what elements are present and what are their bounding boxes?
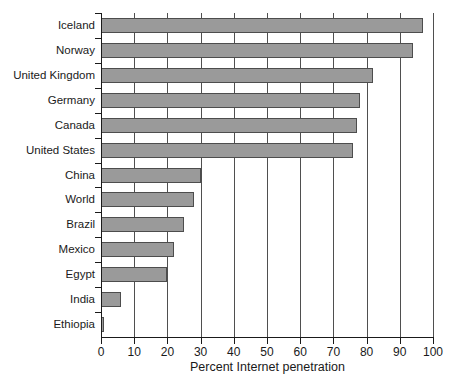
x-tick-label-60: 60 bbox=[284, 345, 316, 359]
x-axis-tick-40 bbox=[234, 338, 235, 344]
bar-norway bbox=[101, 43, 413, 58]
x-axis-tick-30 bbox=[201, 338, 202, 344]
x-axis-title: Percent Internet penetration bbox=[101, 360, 434, 374]
x-tick-label-90: 90 bbox=[384, 345, 416, 359]
x-tick-label-80: 80 bbox=[351, 345, 383, 359]
bar-germany bbox=[101, 93, 360, 108]
bar-china bbox=[101, 168, 201, 183]
bar-brazil bbox=[101, 217, 184, 232]
bar-united-kingdom bbox=[101, 68, 373, 83]
category-label-mexico: Mexico bbox=[0, 237, 95, 262]
category-label-china: China bbox=[0, 163, 95, 188]
category-label-iceland: Iceland bbox=[0, 13, 95, 38]
x-axis-tick-70 bbox=[333, 338, 334, 344]
category-label-united-kingdom: United Kingdom bbox=[0, 63, 95, 88]
x-tick-label-70: 70 bbox=[317, 345, 349, 359]
category-label-united-states: United States bbox=[0, 138, 95, 163]
bar-united-states bbox=[101, 143, 353, 158]
x-tick-label-40: 40 bbox=[218, 345, 250, 359]
category-label-world: World bbox=[0, 187, 95, 212]
category-label-norway: Norway bbox=[0, 38, 95, 63]
x-axis-tick-10 bbox=[134, 338, 135, 344]
x-axis-tick-0 bbox=[101, 338, 102, 344]
gridline-x-100 bbox=[433, 13, 434, 337]
x-tick-label-10: 10 bbox=[118, 345, 150, 359]
category-label-brazil: Brazil bbox=[0, 212, 95, 237]
category-label-canada: Canada bbox=[0, 113, 95, 138]
x-axis-tick-100 bbox=[433, 338, 434, 344]
gridline-x-90 bbox=[400, 13, 401, 337]
bar-india bbox=[101, 292, 121, 307]
x-axis-tick-90 bbox=[400, 338, 401, 344]
gridline-x-50 bbox=[267, 13, 268, 337]
bar-egypt bbox=[101, 267, 167, 282]
category-label-india: India bbox=[0, 287, 95, 312]
gridline-x-40 bbox=[234, 13, 235, 337]
x-tick-label-20: 20 bbox=[151, 345, 183, 359]
x-axis-tick-60 bbox=[300, 338, 301, 344]
bar-canada bbox=[101, 118, 357, 133]
x-tick-label-50: 50 bbox=[251, 345, 283, 359]
bar-world bbox=[101, 192, 194, 207]
gridline-x-80 bbox=[367, 13, 368, 337]
x-axis-tick-20 bbox=[167, 338, 168, 344]
category-label-egypt: Egypt bbox=[0, 262, 95, 287]
gridline-x-30 bbox=[201, 13, 202, 337]
bar-mexico bbox=[101, 242, 174, 257]
x-axis-tick-80 bbox=[367, 338, 368, 344]
bar-iceland bbox=[101, 18, 423, 33]
x-tick-label-30: 30 bbox=[185, 345, 217, 359]
y-axis-line bbox=[101, 13, 102, 338]
gridline-x-70 bbox=[333, 13, 334, 337]
category-label-germany: Germany bbox=[0, 88, 95, 113]
x-tick-label-0: 0 bbox=[85, 345, 117, 359]
x-axis-tick-50 bbox=[267, 338, 268, 344]
x-tick-label-100: 100 bbox=[417, 345, 449, 359]
category-label-ethiopia: Ethiopia bbox=[0, 312, 95, 337]
bar-chart: IcelandNorwayUnited KingdomGermanyCanada… bbox=[0, 0, 458, 390]
gridline-x-60 bbox=[300, 13, 301, 337]
